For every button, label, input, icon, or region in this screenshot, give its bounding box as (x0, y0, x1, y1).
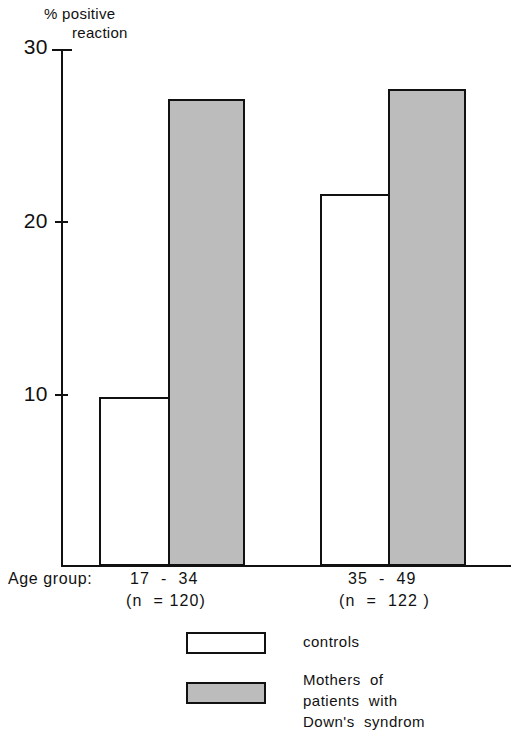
legend-label-controls: controls (303, 631, 360, 652)
x-axis-line (61, 565, 511, 567)
chart-title-line-2: reaction (72, 23, 128, 42)
y-axis-label-10: 10 (4, 383, 48, 404)
chart-title-line-1: % positive (44, 4, 115, 23)
category-sample-size-0: (n = 120) (126, 592, 206, 610)
bar-mothers-group-0 (168, 99, 245, 566)
legend-swatch-controls (186, 632, 266, 654)
y-axis-tick-10 (55, 394, 68, 396)
bar-controls-group-1 (320, 194, 390, 566)
y-axis-label-20: 20 (4, 210, 48, 231)
bar-mothers-group-1 (388, 89, 466, 566)
y-axis-tick-20 (55, 221, 68, 223)
category-sample-size-1: (n = 122 ) (339, 592, 430, 610)
bar-chart: % positive reaction 30 20 10 Age group: … (0, 0, 518, 743)
legend-label-mothers: Mothers of patients with Down's syndrom (303, 669, 425, 732)
legend-swatch-mothers (186, 682, 266, 704)
category-label-1: 35 - 49 (348, 570, 417, 588)
x-axis-caption: Age group: (8, 570, 92, 588)
bar-controls-group-0 (99, 397, 170, 566)
y-axis-tick-30 (52, 49, 72, 51)
category-label-0: 17 - 34 (130, 570, 199, 588)
y-axis-label-30: 30 (4, 36, 48, 57)
y-axis-line (61, 49, 63, 567)
